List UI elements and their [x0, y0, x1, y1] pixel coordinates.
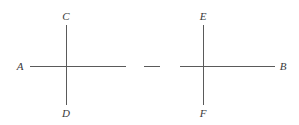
left-figure: A C D [16, 10, 126, 119]
label-C: C [62, 10, 70, 22]
diagram-canvas: A C D E F B [0, 0, 299, 125]
right-figure: E F B [180, 10, 287, 119]
label-E: E [199, 10, 207, 22]
label-B: B [280, 60, 287, 72]
label-D: D [61, 107, 70, 119]
label-A: A [16, 60, 24, 72]
label-F: F [199, 107, 207, 119]
